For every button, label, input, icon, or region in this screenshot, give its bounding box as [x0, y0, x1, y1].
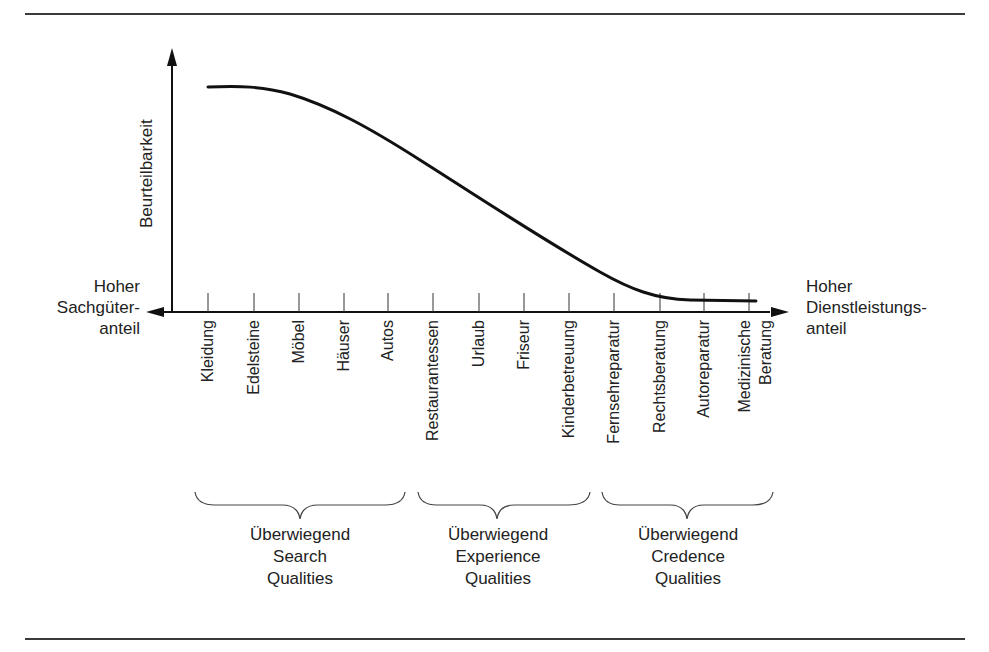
evaluability-curve — [208, 87, 756, 301]
y-axis-label: Beurteilbarkeit — [137, 98, 156, 228]
category-label: Fernsehreparatur — [604, 320, 623, 481]
category-label: Autos — [378, 320, 397, 470]
arrow-up-icon — [167, 48, 177, 66]
arrow-left-icon — [146, 307, 164, 317]
x-ticks — [208, 293, 749, 312]
category-label: Friseur — [514, 320, 533, 470]
category-label: Urlaub — [469, 320, 488, 470]
category-label: Edelsteine — [244, 320, 263, 470]
category-label: Restaurantessen — [423, 320, 442, 481]
right-pole-label: Hoher Dienstleistungs- anteil — [806, 276, 976, 339]
brace-search — [195, 492, 405, 519]
braces — [195, 492, 773, 519]
brace-experience — [418, 492, 590, 519]
category-label: Autoreparatur — [694, 320, 713, 470]
group-label-experience: Überwiegend Experience Qualities — [408, 524, 588, 590]
category-label: Kinderbetreuung — [559, 320, 578, 481]
x-axis — [146, 307, 789, 317]
category-label: Kleidung — [198, 320, 217, 470]
category-label-line2: Beratung — [756, 320, 775, 405]
arrow-right-icon — [771, 307, 789, 317]
group-label-credence: Überwiegend Credence Qualities — [598, 524, 778, 590]
brace-credence — [602, 492, 773, 519]
y-axis — [167, 48, 177, 312]
left-pole-label: Hoher Sachgüter- anteil — [40, 276, 140, 339]
category-label: Rechtsberatung — [650, 320, 669, 470]
category-label: Häuser — [334, 320, 353, 470]
group-label-search: Überwiegend Search Qualities — [210, 524, 390, 590]
category-label: Möbel — [289, 320, 308, 470]
category-label: Medizinische — [735, 320, 754, 470]
